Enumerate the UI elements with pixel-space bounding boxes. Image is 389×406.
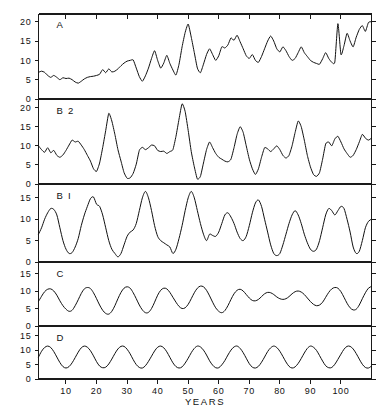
chart-figure: 05101520A05101520B 2051015B I051015C0510… xyxy=(0,0,389,406)
multi-panel-line-chart: 05101520A05101520B 2051015B I051015C0510… xyxy=(0,0,389,406)
panel-label: B I xyxy=(57,190,72,201)
x-tick-label: 50 xyxy=(182,386,193,396)
y-tick-label: 20 xyxy=(20,103,31,113)
y-tick-label: 5 xyxy=(26,160,32,170)
y-tick-label: 10 xyxy=(20,141,31,151)
panel-bi: 051015B I xyxy=(20,185,375,267)
series-line xyxy=(39,22,372,83)
x-tick-label: 60 xyxy=(213,386,224,396)
y-tick-label: 5 xyxy=(26,304,32,314)
panel-label: D xyxy=(57,332,65,343)
y-tick-label: 10 xyxy=(20,56,31,66)
x-tick-label: 70 xyxy=(244,386,255,396)
y-tick-label: 10 xyxy=(20,345,31,355)
y-tick-label: 0 xyxy=(26,321,32,331)
y-tick-label: 10 xyxy=(20,286,31,296)
y-tick-label: 10 xyxy=(20,214,31,224)
panel-label: C xyxy=(57,268,65,279)
x-tick-label: 40 xyxy=(152,386,163,396)
x-tick-label: 90 xyxy=(305,386,316,396)
y-tick-label: 15 xyxy=(20,122,31,132)
y-tick-label: 0 xyxy=(26,374,32,384)
x-tick-label: 80 xyxy=(274,386,285,396)
series-line xyxy=(39,104,372,179)
y-tick-label: 5 xyxy=(26,75,32,85)
x-axis-title: YEARS xyxy=(185,396,225,406)
series-line xyxy=(39,286,372,314)
panel-label: A xyxy=(57,19,65,30)
y-tick-label: 15 xyxy=(20,331,31,341)
x-tick-label: 20 xyxy=(91,386,102,396)
y-tick-label: 0 xyxy=(26,179,32,189)
panel-a: 05101520A xyxy=(20,14,375,104)
y-tick-label: 0 xyxy=(26,257,32,267)
x-axis: 102030405060708090100YEARS xyxy=(60,379,349,406)
y-tick-label: 5 xyxy=(26,360,32,370)
x-tick-label: 30 xyxy=(121,386,132,396)
series-line xyxy=(39,191,372,256)
y-tick-label: 15 xyxy=(20,193,31,203)
y-tick-label: 20 xyxy=(20,17,31,27)
panels-group: 05101520A05101520B 2051015B I051015C0510… xyxy=(20,14,375,384)
panel-b2: 05101520B 2 xyxy=(20,100,375,189)
panel-c: 051015C xyxy=(20,263,375,331)
y-tick-label: 5 xyxy=(26,236,32,246)
x-tick-label: 100 xyxy=(332,386,349,396)
y-tick-label: 15 xyxy=(20,269,31,279)
panel-d: 051015D xyxy=(20,327,375,384)
series-line xyxy=(39,346,372,368)
y-tick-label: 15 xyxy=(20,36,31,46)
x-tick-label: 10 xyxy=(60,386,71,396)
panel-label: B 2 xyxy=(57,105,75,116)
